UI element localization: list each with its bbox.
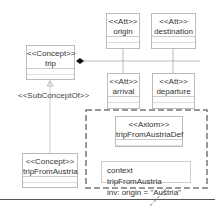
att-name: origin — [107, 27, 139, 37]
att-destination[interactable]: <<Att>> destination — [151, 13, 196, 49]
stereotype-label: <<Concept>> — [27, 49, 74, 59]
attribute-compartment — [27, 69, 74, 75]
concept-header: <<Concept>> trip — [27, 46, 74, 69]
concept-header: <<Concept>> tripFromAustria — [23, 154, 77, 177]
attribute-compartment — [23, 177, 77, 183]
axiom-header: <<Axiom>> tripFromAustriaDef — [116, 117, 182, 140]
att-name: arrival — [108, 87, 139, 97]
compartment — [108, 97, 139, 103]
concept-trip[interactable]: <<Concept>> trip — [26, 45, 75, 80]
att-header: <<Att>> arrival — [108, 74, 139, 97]
note-context-line: context tripFromAustria — [107, 165, 185, 187]
stereotype-label: <<Att>> — [107, 17, 139, 27]
axiom-trip-from-austria-def[interactable]: <<Axiom>> tripFromAustriaDef — [115, 116, 183, 147]
axiom-name: tripFromAustriaDef — [116, 130, 182, 140]
stereotype-label: <<Att>> — [108, 77, 139, 87]
compartment — [116, 140, 182, 146]
subconcept-of-label: <<SubConceptOf>> — [18, 91, 89, 100]
att-arrival[interactable]: <<Att>> arrival — [107, 73, 140, 109]
compartment — [152, 37, 195, 43]
att-name: departure — [153, 87, 194, 97]
att-departure[interactable]: <<Att>> departure — [152, 73, 195, 109]
composition-diamond-icon — [76, 58, 84, 64]
ocl-constraint-note[interactable]: context tripFromAustria inv: origin = "A… — [101, 161, 191, 183]
concept-trip-from-austria[interactable]: <<Concept>> tripFromAustria — [22, 153, 78, 188]
stereotype-label: <<Axiom>> — [116, 120, 182, 130]
att-header: <<Att>> origin — [107, 14, 139, 37]
att-header: <<Att>> destination — [152, 14, 195, 37]
stereotype-label: <<Att>> — [152, 17, 195, 27]
note-invariant-line: inv: origin = "Austria" — [107, 187, 185, 198]
stereotype-label: <<Att>> — [153, 77, 194, 87]
compartment — [107, 37, 139, 43]
stereotype-label: <<Concept>> — [23, 157, 77, 167]
compartment — [153, 97, 194, 103]
att-name: destination — [152, 27, 195, 37]
concept-name: tripFromAustria — [23, 167, 77, 177]
att-header: <<Att>> departure — [153, 74, 194, 97]
att-origin[interactable]: <<Att>> origin — [106, 13, 140, 49]
concept-name: trip — [27, 59, 74, 69]
